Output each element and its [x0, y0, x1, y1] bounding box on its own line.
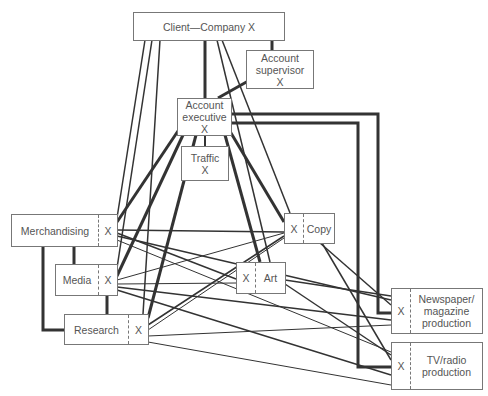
node-research: Research X — [64, 314, 149, 345]
node-label: magazine — [424, 305, 470, 317]
agency-organization-diagram: Client—Company X Account supervisor X Ac… — [0, 0, 488, 396]
node-label: X — [276, 76, 283, 88]
node-label: Account — [261, 52, 299, 64]
node-label: Traffic — [191, 152, 220, 164]
node-label: X — [201, 123, 208, 135]
node-label: Account — [186, 99, 224, 111]
node-tv-radio-production: X TV/radio production — [391, 342, 483, 390]
node-label: X — [201, 164, 208, 176]
node-x-marker: X — [98, 265, 117, 295]
node-newspaper-magazine-production: X Newspaper/ magazine production — [391, 288, 483, 334]
node-label: Client—Company X — [163, 21, 255, 33]
node-x-marker: X — [285, 214, 303, 243]
node-label-group: TV/radio production — [410, 343, 482, 389]
node-media: Media X — [55, 264, 118, 296]
node-art: X Art — [236, 262, 286, 294]
node-label: Copy — [303, 214, 334, 243]
node-label: Merchandising — [12, 215, 98, 246]
node-x-marker: X — [392, 289, 410, 333]
node-label: Media — [56, 265, 98, 295]
node-account-executive: Account executive X — [177, 98, 232, 136]
node-label: Research — [65, 315, 128, 344]
node-label-group: Newspaper/ magazine production — [410, 289, 482, 333]
node-x-marker: X — [392, 343, 410, 389]
node-copy: X Copy — [284, 213, 335, 244]
node-label: production — [422, 317, 471, 329]
node-label: supervisor — [256, 64, 304, 76]
node-x-marker: X — [98, 215, 117, 246]
node-x-marker: X — [128, 315, 148, 344]
node-label: Newspaper/ — [418, 293, 474, 305]
node-x-marker: X — [237, 263, 255, 293]
node-label: executive — [182, 111, 226, 123]
node-traffic: Traffic X — [181, 146, 229, 181]
node-label: Art — [255, 263, 285, 293]
node-merchandising: Merchandising X — [11, 214, 118, 247]
node-client-company: Client—Company X — [133, 12, 285, 41]
node-account-supervisor: Account supervisor X — [246, 50, 314, 89]
node-label: production — [422, 366, 471, 378]
node-label: TV/radio — [427, 354, 467, 366]
